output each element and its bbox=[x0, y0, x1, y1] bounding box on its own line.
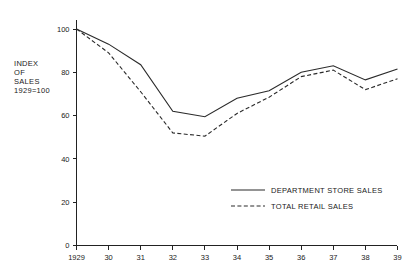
y-tick-label: 0 bbox=[65, 241, 69, 250]
y-axis-label: INDEX OF SALES 1929=100 bbox=[14, 59, 50, 95]
y-axis-ticks: 020406080100 bbox=[57, 25, 77, 251]
y-tick-label: 40 bbox=[61, 155, 69, 164]
x-tick-label: 38 bbox=[361, 253, 369, 262]
y-tick-label: 20 bbox=[61, 198, 69, 207]
x-tick-label: 39 bbox=[393, 253, 401, 262]
x-tick-label: 30 bbox=[104, 253, 112, 262]
legend-label-department-store-sales: DEPARTMENT STORE SALES bbox=[271, 186, 383, 195]
chart-container: INDEX OF SALES 1929=100 020406080100 192… bbox=[0, 0, 405, 273]
x-tick-label: 33 bbox=[201, 253, 209, 262]
x-tick-label: 32 bbox=[169, 253, 177, 262]
series-group bbox=[77, 29, 398, 136]
y-axis-label-line-2: OF bbox=[14, 68, 25, 77]
series-line-total-retail-sales bbox=[77, 29, 398, 136]
y-tick-label: 100 bbox=[57, 25, 70, 34]
x-tick-label: 36 bbox=[297, 253, 305, 262]
x-tick-label: 35 bbox=[265, 253, 273, 262]
y-tick-label: 60 bbox=[61, 111, 69, 120]
y-tick-label: 80 bbox=[61, 68, 69, 77]
x-tick-label: 31 bbox=[137, 253, 145, 262]
x-tick-label: 34 bbox=[233, 253, 241, 262]
y-axis-label-line-3: SALES bbox=[14, 77, 40, 86]
chart-legend: DEPARTMENT STORE SALES TOTAL RETAIL SALE… bbox=[231, 186, 383, 211]
y-axis-label-line-1: INDEX bbox=[14, 59, 38, 68]
x-axis-ticks: 192930313233343536373839 bbox=[68, 246, 402, 262]
y-axis-label-line-4: 1929=100 bbox=[14, 86, 50, 95]
x-tick-label: 37 bbox=[329, 253, 337, 262]
x-tick-label: 1929 bbox=[68, 253, 85, 262]
legend-label-total-retail-sales: TOTAL RETAIL SALES bbox=[271, 202, 353, 211]
line-chart: INDEX OF SALES 1929=100 020406080100 192… bbox=[0, 0, 405, 273]
